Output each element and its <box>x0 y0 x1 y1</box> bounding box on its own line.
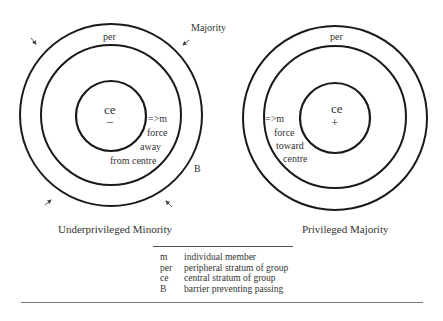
bottom-rule <box>21 302 423 303</box>
right-member-label: =>m <box>265 113 284 124</box>
left-periphery-label: per <box>103 31 116 42</box>
right-force-line-1: force <box>274 127 295 138</box>
arrow-bottom-right <box>166 201 172 207</box>
right-periphery-label: per <box>330 31 343 42</box>
left-force-line-3: from centre <box>110 155 156 166</box>
legend-key: m <box>160 252 184 263</box>
right-centre-label: ce <box>331 103 343 114</box>
legend-row: ce central stratum of group <box>160 273 288 284</box>
legend-key: B <box>160 284 184 295</box>
right-diagram-title: Privileged Majority <box>302 224 388 235</box>
legend-top-rule <box>153 246 293 247</box>
legend-desc: peripheral stratum of group <box>184 263 288 274</box>
legend-desc: central stratum of group <box>184 273 276 284</box>
legend-row: B barrier preventing passing <box>160 284 288 295</box>
legend-row: per peripheral stratum of group <box>160 263 288 274</box>
legend-row: m individual member <box>160 252 288 263</box>
legend-key: per <box>160 263 184 274</box>
legend: m individual member per peripheral strat… <box>160 252 288 294</box>
left-outer-label: Majority <box>191 22 226 33</box>
right-force-line-3: centre <box>283 153 307 164</box>
left-diagram-title: Underprivileged Minority <box>58 224 172 235</box>
arrow-top-right <box>183 40 189 45</box>
legend-desc: individual member <box>184 252 256 263</box>
left-centre-sign: − <box>106 117 113 128</box>
arrow-top-left <box>31 38 36 44</box>
legend-key: ce <box>160 273 184 284</box>
right-centre-sign: + <box>331 117 338 128</box>
arrow-bottom-left <box>45 200 51 205</box>
left-centre-label: ce <box>104 104 116 115</box>
left-force-line-1: force <box>147 127 168 138</box>
left-barrier-label: B <box>194 163 201 174</box>
legend-desc: barrier preventing passing <box>184 284 283 295</box>
left-member-label: =>m <box>148 113 167 124</box>
left-force-line-2: away <box>140 141 161 152</box>
right-force-line-2: toward <box>276 140 304 151</box>
